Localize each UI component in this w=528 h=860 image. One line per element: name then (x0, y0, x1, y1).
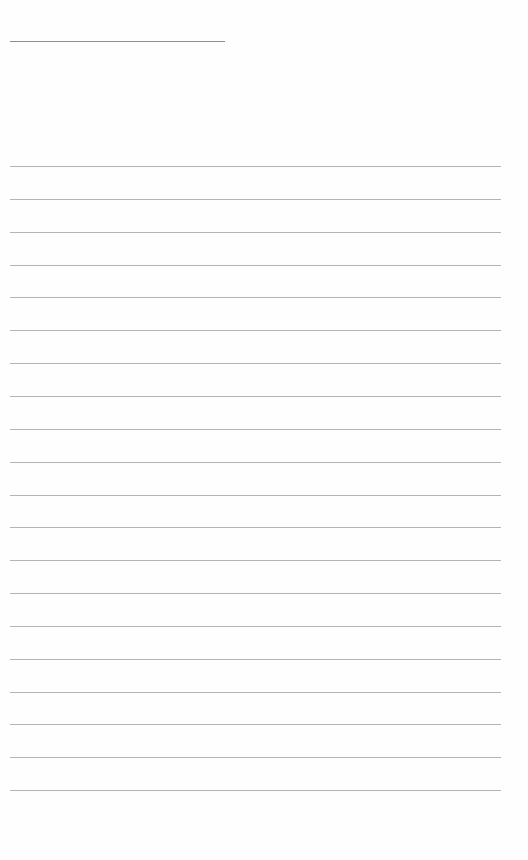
ruled-line (10, 495, 501, 496)
ruled-line (10, 363, 501, 364)
ruled-line (10, 626, 501, 627)
ruled-lines (0, 0, 528, 860)
ruled-line (10, 757, 501, 758)
ruled-page (0, 0, 528, 860)
ruled-line (10, 659, 501, 660)
ruled-line (10, 527, 501, 528)
ruled-line (10, 724, 501, 725)
ruled-line (10, 560, 501, 561)
ruled-line (10, 396, 501, 397)
ruled-line (10, 330, 501, 331)
ruled-line (10, 199, 501, 200)
ruled-line (10, 462, 501, 463)
ruled-line (10, 790, 501, 791)
ruled-line (10, 692, 501, 693)
ruled-line (10, 232, 501, 233)
ruled-line (10, 429, 501, 430)
ruled-line (10, 265, 501, 266)
ruled-line (10, 166, 501, 167)
ruled-line (10, 593, 501, 594)
ruled-line (10, 297, 501, 298)
